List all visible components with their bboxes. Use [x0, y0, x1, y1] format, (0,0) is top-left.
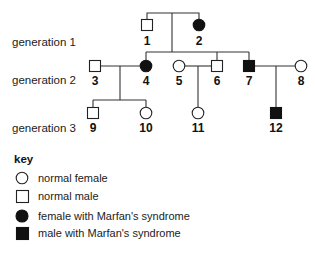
legend-item-affected-male: male with Marfan's syndrome — [38, 227, 181, 239]
individual-5-label: 5 — [176, 74, 183, 88]
individual-2-circle — [193, 19, 205, 31]
individual-6-label: 6 — [214, 74, 221, 88]
individual-3-label: 3 — [92, 74, 99, 88]
open-square-icon — [17, 191, 29, 203]
individual-8-label: 8 — [298, 74, 305, 88]
legend-item-normal-female: normal female — [38, 172, 108, 184]
individual-6-square — [212, 61, 223, 72]
generation-2-label: generation 2 — [12, 74, 76, 86]
generation-3-label: generation 3 — [12, 122, 76, 134]
individual-11-circle — [192, 107, 204, 119]
filled-square-icon — [17, 228, 29, 240]
individual-11-label: 11 — [192, 121, 205, 135]
individual-10-circle — [140, 107, 152, 119]
individual-5-circle — [173, 60, 185, 72]
individual-7-square — [244, 61, 255, 72]
legend-title: key — [14, 153, 34, 165]
individual-4-circle — [140, 60, 152, 72]
individual-9-square — [88, 108, 99, 119]
individual-12-square — [271, 108, 282, 119]
mating-line-1-2 — [147, 13, 199, 20]
individual-2-label: 2 — [196, 34, 203, 48]
individual-1-square — [142, 20, 153, 31]
individual-8-circle — [295, 60, 307, 72]
generation-1-label: generation 1 — [12, 36, 76, 48]
individual-7-label: 7 — [246, 74, 253, 88]
individual-12-label: 12 — [269, 121, 283, 135]
pedigree-diagram: generation 1 generation 2 generation 3 1… — [0, 0, 315, 271]
individual-9-label: 9 — [90, 121, 97, 135]
individual-4-label: 4 — [143, 74, 150, 88]
individual-3-square — [90, 61, 101, 72]
legend-item-normal-male: normal male — [38, 190, 99, 202]
filled-circle-icon — [16, 210, 28, 222]
individual-10-label: 10 — [139, 121, 153, 135]
legend-item-affected-female: female with Marfan's syndrome — [38, 210, 190, 222]
legend: key normal female normal male female wit… — [14, 153, 190, 240]
open-circle-icon — [16, 172, 28, 184]
individual-1-label: 1 — [144, 34, 151, 48]
